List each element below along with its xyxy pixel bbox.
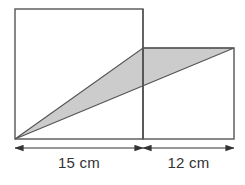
geometry-figure: 15 cm 12 cm [0, 0, 245, 185]
shaded-triangle-outline [15, 48, 234, 139]
left-dimension-label: 15 cm [15, 154, 143, 171]
right-dimension-label: 12 cm [143, 154, 234, 171]
